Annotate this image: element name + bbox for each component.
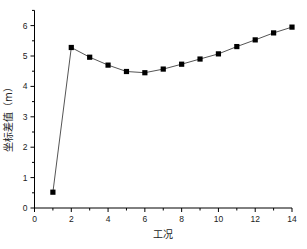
- x-tick-label: 8: [179, 214, 184, 224]
- series-line: [53, 27, 292, 192]
- data-point-marker: [197, 56, 202, 61]
- x-tick-label: 12: [250, 214, 260, 224]
- line-chart: 024681012140123456 工况 坐标差值（m）: [0, 0, 307, 249]
- y-axis-title: 坐标差值（m）: [2, 82, 14, 152]
- y-tick-label: 3: [23, 112, 28, 122]
- y-tick-label: 6: [23, 21, 28, 31]
- x-tick-label: 4: [106, 214, 111, 224]
- y-tick-label: 4: [23, 81, 28, 91]
- data-point-marker: [234, 44, 239, 49]
- data-point-marker: [179, 62, 184, 67]
- data-point-marker: [50, 190, 55, 195]
- x-tick-label: 10: [214, 214, 224, 224]
- x-tick-label: 0: [32, 214, 37, 224]
- x-axis-title: 工况: [153, 229, 173, 240]
- data-point-marker: [142, 70, 147, 75]
- y-tick-label: 1: [23, 173, 28, 183]
- y-tick-label: 5: [23, 51, 28, 61]
- x-tick-label: 14: [287, 214, 297, 224]
- data-point-marker: [69, 45, 74, 50]
- data-point-marker: [161, 66, 166, 71]
- x-tick-label: 6: [142, 214, 147, 224]
- data-point-marker: [87, 55, 92, 60]
- data-point-marker: [271, 30, 276, 35]
- data-point-marker: [253, 37, 258, 42]
- x-tick-label: 2: [69, 214, 74, 224]
- y-tick-label: 2: [23, 142, 28, 152]
- data-point-marker: [216, 51, 221, 56]
- data-point-marker: [105, 63, 110, 68]
- y-tick-label: 0: [23, 203, 28, 213]
- data-point-marker: [124, 69, 129, 74]
- plot-area: [50, 25, 294, 195]
- data-point-marker: [289, 25, 294, 30]
